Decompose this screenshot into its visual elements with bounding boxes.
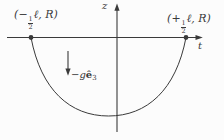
left-endpoint-label: (−12ℓ, R) — [6, 9, 66, 31]
gravity-label: −gê3 — [71, 69, 97, 83]
fraction-one-half: 12 — [181, 20, 186, 35]
figure-canvas: z t (−12ℓ, R) (+12ℓ, R) −gê3 — [0, 0, 224, 140]
right-endpoint-dot — [184, 35, 189, 40]
hanging-curve — [31, 38, 186, 117]
gravity-arrowhead-icon — [65, 69, 70, 76]
right-endpoint-label: (+12ℓ, R) — [159, 13, 219, 35]
z-axis-label: z — [102, 0, 107, 11]
z-axis-arrowhead-icon — [114, 4, 119, 11]
left-endpoint-dot — [29, 35, 34, 40]
fraction-one-half: 12 — [28, 16, 33, 31]
t-axis-label: t — [198, 40, 202, 51]
